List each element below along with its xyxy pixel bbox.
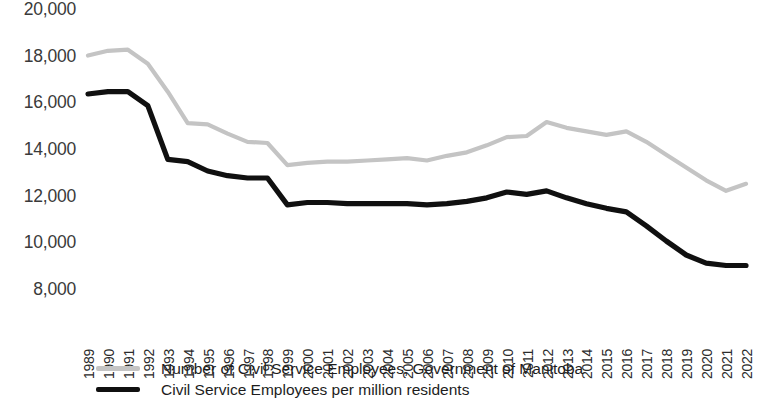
y-tick-label: 14,000 xyxy=(24,141,76,159)
legend-item-label: Number of Civil Service Employees, Gover… xyxy=(161,361,583,377)
y-axis: 20,00018,00016,00014,00012,00010,0008,00… xyxy=(0,0,86,300)
y-tick-label: 12,000 xyxy=(24,188,76,206)
legend-item-label: Civil Service Employees per million resi… xyxy=(161,382,469,398)
y-tick-label: 20,000 xyxy=(24,1,76,19)
legend-item[interactable]: Civil Service Employees per million resi… xyxy=(96,379,736,400)
y-tick-label: 18,000 xyxy=(24,48,76,66)
x-axis: 1989199019911992199319941995199619971998… xyxy=(86,291,762,353)
x-tick-label: 2022 xyxy=(740,349,754,379)
series-line xyxy=(88,50,746,191)
y-tick-label: 16,000 xyxy=(24,94,76,112)
y-tick-label: 8,000 xyxy=(33,281,76,299)
y-tick-label: 10,000 xyxy=(24,234,76,252)
line-chart: 20,00018,00016,00014,00012,00010,0008,00… xyxy=(0,0,772,415)
plot-svg xyxy=(86,10,762,290)
x-tick-label: 1989 xyxy=(82,349,96,379)
legend-color-swatch xyxy=(96,387,140,392)
legend-item[interactable]: Number of Civil Service Employees, Gover… xyxy=(96,358,736,379)
plot-area xyxy=(86,10,762,290)
legend-color-swatch xyxy=(96,366,140,371)
chart-legend: Number of Civil Service Employees, Gover… xyxy=(96,358,736,400)
